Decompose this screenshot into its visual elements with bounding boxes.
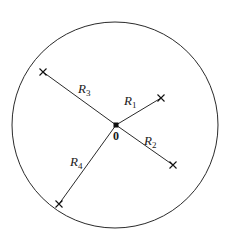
origin-point	[114, 123, 119, 128]
radii-group: R1R2R3R4	[40, 69, 177, 208]
radius-line	[59, 125, 116, 204]
cross-marker-icon	[158, 95, 165, 102]
radius-r4: R4	[56, 125, 117, 208]
radius-r3: R3	[40, 69, 117, 126]
cross-marker-icon	[56, 201, 63, 208]
origin-label: 0	[113, 129, 119, 143]
radius-r1: R1	[116, 93, 165, 125]
cross-marker-icon	[170, 162, 177, 169]
radius-line	[116, 98, 161, 125]
radii-diagram: R1R2R3R4 0	[0, 0, 230, 241]
radius-r2: R2	[116, 125, 177, 169]
radius-label: R3	[77, 81, 91, 98]
cross-marker-icon	[40, 69, 47, 76]
radius-label: R1	[123, 93, 136, 110]
radius-label: R4	[69, 154, 83, 171]
radius-label: R2	[143, 133, 156, 150]
radius-line	[43, 72, 116, 125]
